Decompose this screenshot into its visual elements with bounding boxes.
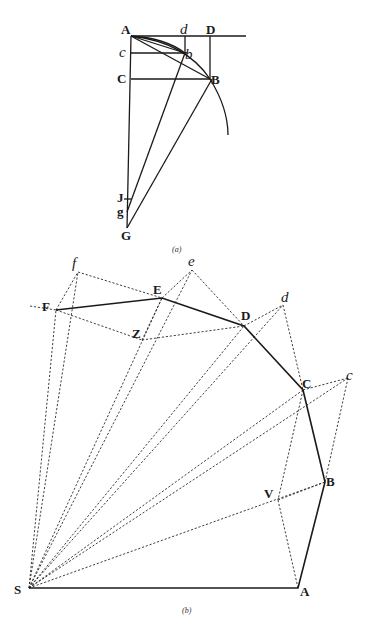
figure-b: S A B C D E F c d e f V Z (b) [14, 253, 353, 615]
label-C: C [302, 376, 311, 391]
label-J: J [117, 190, 124, 205]
label-F: F [42, 299, 50, 314]
label-c: c [119, 44, 126, 60]
label-G: G [121, 228, 131, 243]
chord-AB [131, 36, 210, 79]
label-B: B [211, 72, 220, 87]
label-A: A [300, 584, 310, 599]
label-B: B [326, 474, 335, 489]
label-f: f [72, 255, 78, 271]
label-D: D [241, 308, 250, 323]
caption-a: (a) [172, 245, 182, 254]
label-e: e [188, 253, 195, 269]
orbit-polygon [29, 298, 325, 588]
label-S: S [14, 582, 21, 597]
label-d: d [180, 21, 188, 37]
dashed-rays [29, 270, 348, 588]
label-D: D [206, 22, 215, 37]
line-bg [127, 53, 185, 212]
figure-a: A d D c b C B J g G (a) [117, 21, 246, 254]
label-Z: Z [132, 326, 141, 341]
diagram-canvas: A d D c b C B J g G (a) [0, 0, 380, 621]
caption-b: (b) [182, 606, 192, 615]
label-V: V [264, 486, 274, 501]
construction-lines [30, 270, 348, 588]
label-E: E [153, 282, 162, 297]
label-A: A [121, 22, 131, 37]
label-c: c [346, 367, 353, 383]
label-d: d [281, 289, 289, 305]
line-BG [127, 79, 212, 228]
label-C: C [117, 71, 126, 86]
label-g: g [117, 204, 124, 219]
label-b: b [185, 46, 193, 62]
